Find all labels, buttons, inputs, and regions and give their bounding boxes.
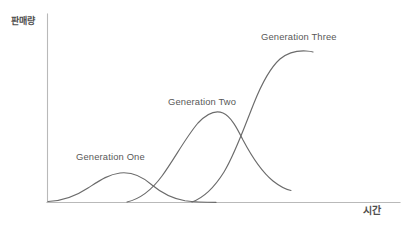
chart-container: 판매량 시간 Generation One Generation Two Gen… xyxy=(0,0,405,233)
series-curve-generation-three xyxy=(192,51,313,202)
series-curve-generation-two xyxy=(127,112,291,202)
series-curve-generation-one xyxy=(48,173,216,203)
series-label-generation-three: Generation Three xyxy=(261,32,337,41)
chart-plot-area xyxy=(0,0,405,233)
series-label-generation-one: Generation One xyxy=(76,152,145,161)
series-label-generation-two: Generation Two xyxy=(168,97,236,106)
x-axis-label: 시간 xyxy=(363,206,381,216)
y-axis-label: 판매량 xyxy=(11,17,35,26)
